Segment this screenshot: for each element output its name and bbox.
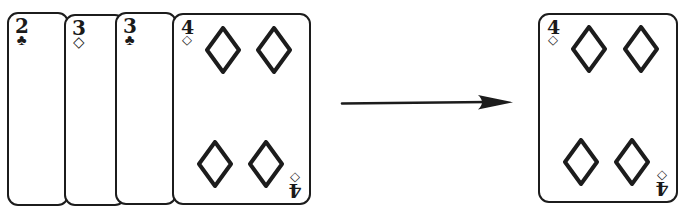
card-2-clubs[interactable]: 2 ♣ — [7, 12, 69, 206]
diamond-pip-icon — [562, 138, 600, 186]
card-index-top-left: 3 ♣ — [123, 17, 136, 48]
diamond-suit-icon: ◇ — [73, 36, 85, 50]
diamond-pip-icon — [570, 25, 608, 73]
card-4-diamonds-result[interactable]: 4 ◇ 4 ◇ — [538, 13, 678, 203]
diamond-pip-icon — [204, 26, 242, 74]
diamond-pip-icon — [622, 25, 660, 73]
clubs-suit-icon: ♣ — [125, 34, 135, 48]
diamond-pip-icon — [255, 26, 293, 74]
card-index-top-left: 3 ◇ — [72, 19, 85, 50]
diamond-suit-icon: ◇ — [182, 34, 192, 46]
card-3-clubs[interactable]: 3 ♣ — [115, 12, 177, 205]
card-index-bottom-right: 4 ◇ — [656, 170, 669, 197]
clubs-suit-icon: ♣ — [17, 34, 27, 48]
card-4-diamonds-stacked[interactable]: 4 ◇ 4 ◇ — [172, 13, 311, 205]
card-illustration-scene: 2 ♣ 3 ◇ 3 ♣ 4 ◇ 4 ◇ — [0, 0, 689, 215]
diamond-pip-icon — [247, 140, 285, 188]
diamond-pip-icon — [196, 140, 234, 188]
diamond-pip-icon — [613, 138, 651, 186]
diamond-suit-icon: ◇ — [548, 34, 558, 46]
card-index-bottom-right: 4 ◇ — [289, 172, 302, 199]
transform-arrow — [338, 86, 518, 120]
diamond-suit-icon: ◇ — [658, 170, 668, 182]
card-index-top-left: 2 ♣ — [15, 17, 28, 48]
card-index-top-left: 4 ◇ — [547, 19, 560, 46]
card-index-top-left: 4 ◇ — [181, 19, 194, 46]
diamond-suit-icon: ◇ — [291, 172, 301, 184]
